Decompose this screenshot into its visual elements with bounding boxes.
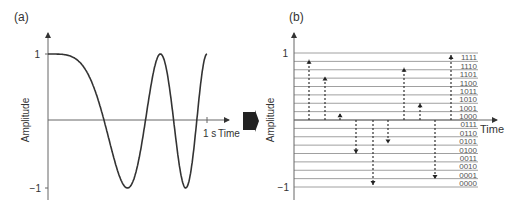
panel-b-ylabel: Amplitude	[265, 97, 276, 142]
panel-b-ytick-label-1: 1	[282, 48, 288, 59]
sample-arrowhead-icon	[338, 113, 343, 117]
analog-signal-curve	[48, 54, 207, 188]
panel-b-label: (b)	[289, 10, 304, 24]
panel-a-ylabel: Amplitude	[20, 97, 31, 142]
sample-arrowhead-icon	[449, 55, 454, 59]
block-arrow-right-icon	[243, 110, 259, 132]
panel-a-xlabel: Time	[218, 128, 240, 139]
panel-a-label: (a)	[14, 10, 29, 24]
sample-arrowhead-icon	[386, 139, 391, 143]
quantization-code: 0000	[459, 179, 477, 188]
sample-arrowhead-icon	[354, 150, 359, 154]
panel-a: (a) 1 −1 Amplitude 1 s Time	[14, 10, 240, 200]
sample-arrowhead-icon	[371, 181, 376, 185]
panel-a-ytick-label-m1: −1	[30, 183, 42, 194]
panel-b-ytick-label-m1: −1	[278, 182, 290, 193]
panel-b: (b) 111111101101110010111010100110000111…	[265, 10, 504, 200]
figure: (a) 1 −1 Amplitude 1 s Time (b) 11111110…	[0, 0, 518, 210]
sample-arrowhead-icon	[418, 103, 423, 107]
panel-a-xtick-label: 1 s	[203, 128, 216, 139]
panel-b-xlabel: Time	[480, 123, 504, 135]
panel-a-ytick-label-1: 1	[34, 49, 40, 60]
quantization-codes: 1111111011011100101110101001100001110110…	[459, 53, 477, 188]
